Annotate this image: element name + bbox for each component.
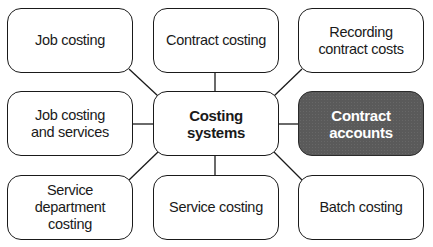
node-label: Contract costing [166, 32, 266, 49]
node-recording-contract-costs: Recording contract costs [298, 8, 424, 73]
node-service-department-costing: Service department costing [7, 175, 133, 240]
node-service-costing: Service costing [153, 175, 279, 240]
node-costing-systems-center: Costing systems [153, 91, 279, 156]
connector-recording-contract-costs [274, 69, 302, 96]
connector-service-department-costing [129, 152, 158, 180]
center-label: Costing systems [160, 107, 272, 141]
node-label: Contract accounts [305, 107, 417, 141]
node-batch-costing: Batch costing [298, 175, 424, 240]
node-label: Recording contract costs [313, 24, 409, 58]
node-label: Job costing and services [30, 107, 110, 141]
node-contract-costing: Contract costing [153, 8, 279, 73]
node-label: Batch costing [319, 199, 402, 216]
node-label: Service department costing [30, 182, 110, 233]
node-job-costing: Job costing [7, 8, 133, 73]
node-label: Service costing [169, 199, 263, 216]
node-contract-accounts: Contract accounts [298, 91, 424, 156]
connector-batch-costing [274, 152, 302, 180]
node-job-costing-services: Job costing and services [7, 91, 133, 156]
node-label: Job costing [35, 32, 105, 49]
connector-job-costing [129, 69, 158, 96]
